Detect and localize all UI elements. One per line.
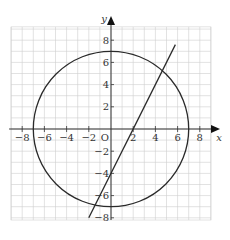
- y-tick-label: 4: [103, 79, 109, 90]
- x-axis-label: x: [216, 132, 222, 143]
- x-tick-label: 4: [152, 132, 158, 143]
- y-tick-label: −4: [94, 168, 109, 179]
- y-tick-label: −2: [94, 146, 109, 157]
- x-tick-label: −6: [37, 132, 52, 143]
- y-tick-label: 6: [103, 57, 109, 68]
- origin-label: O: [101, 132, 109, 143]
- x-tick-label: 2: [130, 132, 136, 143]
- y-axis-label: y: [100, 13, 107, 24]
- x-tick-label: −4: [59, 132, 74, 143]
- y-tick-label: 8: [103, 35, 109, 46]
- x-tick-label: −2: [81, 132, 96, 143]
- x-tick-label: 6: [174, 132, 180, 143]
- y-axis-arrow-icon: [107, 16, 115, 25]
- x-tick-label: −8: [15, 132, 30, 143]
- y-tick-label: −8: [94, 212, 109, 223]
- y-tick-label: 2: [103, 101, 109, 112]
- y-tick-label: −6: [94, 190, 109, 201]
- x-tick-label: 8: [197, 132, 203, 143]
- coordinate-plot: −8−6−4−22468−8−6−4−22468Oxy: [0, 0, 230, 240]
